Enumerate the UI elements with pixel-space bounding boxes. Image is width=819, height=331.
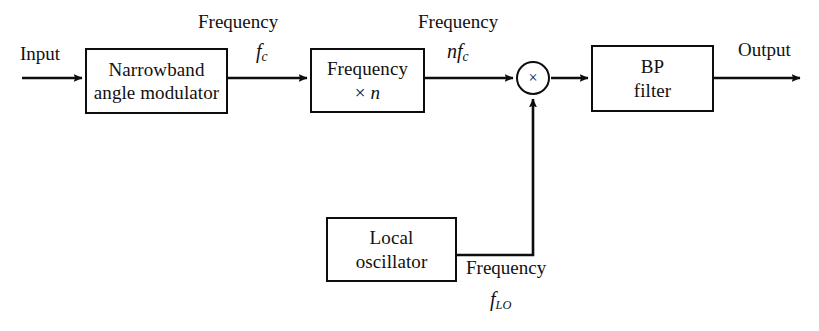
block-lo-line1: Local bbox=[370, 226, 414, 249]
nfc-prefix: n bbox=[447, 40, 457, 62]
label-input: Input bbox=[20, 44, 60, 65]
block-narrowband-angle-modulator: Narrowband angle modulator bbox=[85, 48, 228, 114]
wire-localoscillator-to-mixer bbox=[457, 99, 533, 255]
flo-subscript: LO bbox=[496, 298, 512, 312]
label-flo-symbol: fLO bbox=[490, 288, 511, 312]
block-bp-line1: BP bbox=[641, 55, 664, 78]
block-narrowband-line1: Narrowband bbox=[109, 58, 205, 81]
multiply-sign: × bbox=[355, 82, 366, 103]
label-fc-symbol: fc bbox=[256, 40, 268, 65]
mixer-multiply-icon: × bbox=[528, 69, 537, 87]
block-bp-line2: filter bbox=[634, 79, 672, 102]
block-multiplier-line1: Frequency bbox=[327, 57, 408, 80]
block-local-oscillator: Local oscillator bbox=[326, 217, 457, 282]
label-output: Output bbox=[738, 40, 791, 61]
nfc-subscript: c bbox=[463, 49, 469, 64]
block-bp-filter: BP filter bbox=[591, 45, 714, 112]
block-frequency-multiplier: Frequency × n bbox=[310, 48, 425, 113]
label-frequency-multiplied: Frequency bbox=[418, 12, 498, 33]
mixer-node: × bbox=[516, 61, 550, 95]
block-multiplier-line2: × n bbox=[355, 81, 380, 104]
multiplier-factor: n bbox=[371, 82, 381, 103]
label-frequency-carrier: Frequency bbox=[198, 12, 278, 33]
fc-subscript: c bbox=[262, 49, 268, 64]
block-narrowband-line2: angle modulator bbox=[94, 81, 220, 104]
block-lo-line2: oscillator bbox=[356, 250, 428, 273]
label-frequency-lo: Frequency bbox=[466, 258, 546, 279]
block-diagram-canvas: Narrowband angle modulator Frequency × n… bbox=[0, 0, 819, 331]
label-nfc-symbol: nfc bbox=[447, 40, 469, 65]
